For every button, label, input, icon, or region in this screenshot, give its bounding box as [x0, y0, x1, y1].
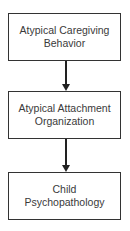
node-label-line2: Organization: [18, 115, 110, 128]
node-label-line2: Psychopathology: [25, 196, 105, 209]
node-label-line2: Behavior: [20, 37, 110, 50]
node-atypical-attachment-organization: Atypical Attachment Organization: [8, 91, 121, 139]
node-label-line1: Atypical Attachment: [18, 102, 110, 115]
arrowhead-down-icon: [62, 84, 70, 91]
node-atypical-caregiving-behavior: Atypical Caregiving Behavior: [8, 13, 121, 61]
arrow-line-2: [65, 139, 67, 165]
arrowhead-down-icon: [62, 165, 70, 172]
node-label-line1: Atypical Caregiving: [20, 24, 110, 37]
arrow-line-1: [65, 61, 67, 85]
node-child-psychopathology: Child Psychopathology: [8, 172, 121, 220]
node-label-line1: Child: [25, 183, 105, 196]
